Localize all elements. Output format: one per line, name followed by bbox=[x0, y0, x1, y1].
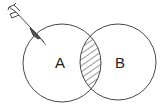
dart-icon bbox=[8, 3, 46, 45]
set-a-label: A bbox=[55, 54, 65, 71]
set-b-label: B bbox=[115, 54, 125, 71]
venn-diagram: A B bbox=[0, 0, 165, 108]
